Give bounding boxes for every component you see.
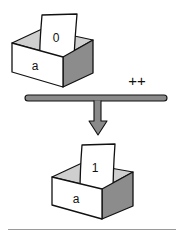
- value-text: 0: [53, 31, 60, 45]
- variable-box-before: 0 a: [12, 14, 93, 87]
- variable-name: a: [73, 192, 80, 206]
- down-arrow-icon: [89, 101, 107, 136]
- operator-label: ++: [128, 72, 146, 89]
- variable-box-after: 1 a: [52, 144, 133, 219]
- increment-diagram: 0 a ++ 1 a: [0, 0, 179, 231]
- variable-name: a: [32, 59, 39, 73]
- operator-bar: [25, 95, 167, 101]
- transform-arrow: [25, 95, 167, 135]
- value-text: 1: [92, 161, 99, 175]
